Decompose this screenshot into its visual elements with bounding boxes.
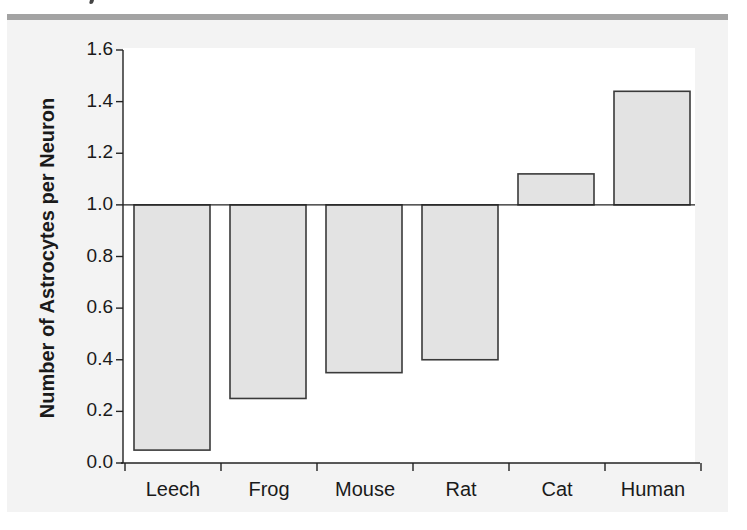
bar-cat <box>518 174 594 205</box>
bars <box>134 91 690 450</box>
bar-leech <box>134 205 210 450</box>
bar-human <box>614 91 690 205</box>
bar-mouse <box>326 205 402 373</box>
bar-rat <box>422 205 498 360</box>
bar-frog <box>230 205 306 399</box>
bar-chart <box>0 0 747 530</box>
